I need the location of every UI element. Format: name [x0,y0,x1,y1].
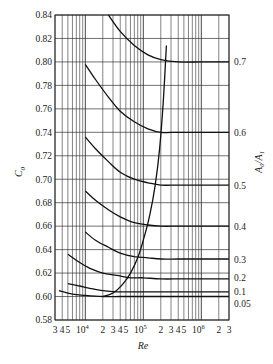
ratio-label: 0.2 [234,273,246,283]
y-tick-label: 0.80 [35,57,52,67]
x-tick-label: 3 [227,325,232,335]
x-axis-label: Re [137,340,149,351]
y-tick-label: 0.66 [35,221,52,231]
y-tick-label: 0.82 [35,34,52,44]
curve-ratio-0-5 [85,137,229,185]
orifice-coefficient-chart: 0.580.600.620.640.660.680.700.720.740.76… [0,0,273,364]
x-tick-label: 3 [53,325,58,335]
y-axis-ticks: 0.580.600.620.640.660.680.700.720.740.76… [35,10,52,325]
y-tick-label: 0.68 [35,198,52,208]
y-tick-label: 0.64 [35,245,52,255]
y-tick-label: 0.60 [35,292,52,302]
y-tick-label: 0.58 [35,315,52,325]
area-ratio-labels: 0.70.60.50.40.30.20.10.05 [234,57,251,309]
x-tick-label: 5 [123,325,128,335]
x-tick-label: 2 [100,325,105,335]
x-tick-label: 4 [176,325,181,335]
x-tick-label: 2 [158,325,163,335]
ratio-label: 0.05 [234,299,251,309]
right-axis-label: A₀/A₁ [253,151,264,174]
x-tick-label: 5 [181,325,186,335]
grid-lines [55,15,229,320]
x-tick-label: 4 [118,325,123,335]
y-axis-label: C0 [13,166,27,177]
y-tick-label: 0.84 [35,10,52,20]
x-tick-label: 105 [134,323,147,335]
ratio-label: 0.6 [234,128,246,138]
ratio-label: 0.1 [234,287,246,297]
x-tick-label: 4 [60,325,65,335]
curve-ratio-0-3 [85,232,229,259]
y-tick-label: 0.76 [35,104,52,114]
plot-frame [55,15,229,320]
x-tick-label: 2 [216,325,221,335]
curve-ratio-0-1 [68,284,229,292]
ratio-label: 0.5 [234,181,246,191]
ratio-label: 0.7 [234,57,246,67]
x-tick-label: 106 [192,323,206,335]
x-axis-ticks: 3451042345105234510623 [53,323,232,335]
ratio-label: 0.3 [234,255,246,265]
y-tick-label: 0.72 [35,151,52,161]
y-tick-label: 0.78 [35,81,52,91]
ratio-label: 0.4 [234,222,246,232]
x-tick-label: 5 [65,325,70,335]
x-tick-label: 3 [111,325,116,335]
x-tick-label: 104 [76,323,90,335]
x-tick-label: 3 [169,325,174,335]
y-tick-label: 0.62 [35,268,52,278]
curve-ratio-0-6 [85,64,229,132]
y-tick-label: 0.74 [35,128,52,138]
curve-ratio-0-4 [85,191,229,226]
y-tick-label: 0.70 [35,175,52,185]
